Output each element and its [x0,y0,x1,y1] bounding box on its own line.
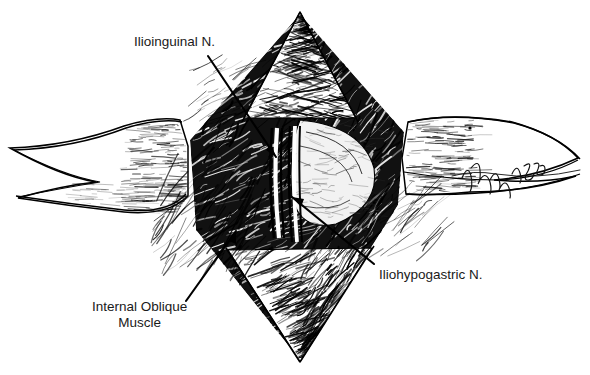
ink-drawing [0,0,590,375]
label-ilioinguinal-text: Ilioinguinal N. [134,34,215,49]
label-iliohypogastric-nerve: Iliohypogastric N. [379,267,483,283]
label-internal-oblique-muscle: Internal Oblique Muscle [92,299,187,331]
surgical-illustration: Ilioinguinal N. Iliohypogastric N. Inter… [0,0,590,375]
label-iliohypogastric-text: Iliohypogastric N. [379,267,483,282]
label-internal-oblique-line2: Muscle [92,315,187,331]
label-ilioinguinal-nerve: Ilioinguinal N. [134,34,215,50]
label-internal-oblique-line1: Internal Oblique [92,299,187,315]
